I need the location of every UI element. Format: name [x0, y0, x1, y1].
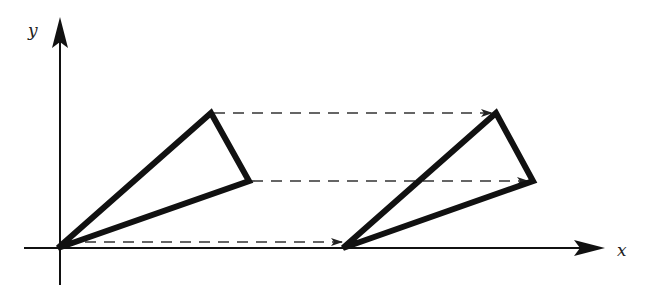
- x-axis-label: x: [617, 240, 627, 260]
- y-axis-label: y: [27, 20, 38, 40]
- original-triangle: [58, 113, 249, 248]
- diagram-canvas: y x: [0, 0, 650, 296]
